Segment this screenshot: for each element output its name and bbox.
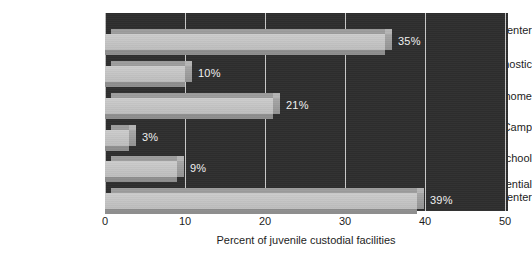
value-label-detention-center: 35%: [398, 36, 421, 47]
xtick-10: 10: [179, 215, 191, 227]
bar-end-cap: [177, 161, 184, 177]
bar-bottom-shade: [105, 50, 385, 55]
bar-chart: Detention center Shelter/diagnostic Grou…: [0, 0, 532, 254]
bar-front-face: [105, 193, 417, 209]
value-label-group-home: 21%: [286, 100, 309, 111]
bar-front-face: [105, 98, 273, 114]
xtick-40: 40: [419, 215, 431, 227]
bar-bottom-shade: [105, 82, 185, 87]
xtick-30: 30: [339, 215, 351, 227]
bar-bottom-shade: [105, 209, 417, 214]
gridline-50: [505, 13, 506, 211]
value-label-camp: 3%: [142, 132, 158, 143]
xtick-20: 20: [259, 215, 271, 227]
x-axis-title: Percent of juvenile custodial facilities: [0, 234, 532, 246]
bar-end-cap: [185, 66, 192, 82]
bar-bottom-shade: [105, 146, 129, 151]
bar-front-face: [105, 161, 177, 177]
value-label-training-school: 9%: [190, 163, 206, 174]
gridline-40: [425, 13, 426, 211]
bar-end-cap: [385, 34, 392, 50]
bar-bottom-shade: [105, 177, 177, 182]
bar-front-face: [105, 66, 185, 82]
value-label-residential-treatment-center: 39%: [430, 195, 453, 206]
xtick-50: 50: [499, 215, 511, 227]
x-axis-title-text: Percent of juvenile custodial facilities: [216, 234, 395, 246]
bar-bottom-shade: [105, 114, 273, 119]
plot-area: 35% 10% 21% 3%: [105, 13, 508, 211]
bar-end-cap: [129, 130, 136, 146]
bar-end-cap: [417, 193, 424, 209]
bar-front-face: [105, 34, 385, 50]
value-label-shelter-diagnostic: 10%: [198, 68, 221, 79]
bar-end-cap: [273, 98, 280, 114]
xtick-0: 0: [102, 215, 108, 227]
bar-front-face: [105, 130, 129, 146]
